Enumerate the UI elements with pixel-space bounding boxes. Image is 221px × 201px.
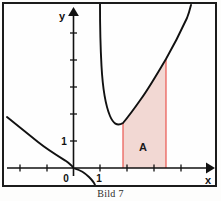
y-axis-arrowhead <box>68 7 79 16</box>
plot-frame: y x 0 1 1 A <box>2 2 217 187</box>
plot-canvas: y x 0 1 1 A <box>4 4 215 185</box>
region-label-A: A <box>139 141 147 153</box>
y-tick-label-1: 1 <box>61 136 67 147</box>
origin-label: 0 <box>63 173 69 184</box>
x-axis-arrowhead <box>206 163 215 174</box>
figure-caption: Bild 7 <box>0 187 221 201</box>
y-axis-label: y <box>59 10 66 22</box>
figure-container: y x 0 1 1 A Bild 7 <box>0 0 221 201</box>
curve-middle-branch <box>75 169 95 185</box>
x-axis-label: x <box>205 174 212 185</box>
x-tick-label-1: 1 <box>96 173 102 184</box>
